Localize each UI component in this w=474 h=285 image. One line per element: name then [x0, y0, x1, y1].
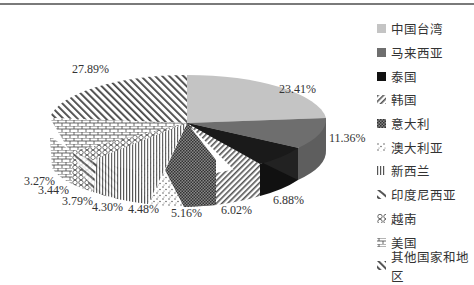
label-newzealand: 4.30% — [92, 200, 123, 215]
label-usa: 3.27% — [24, 174, 55, 189]
brick-square-icon — [377, 238, 386, 247]
vertical-lines-square-icon — [377, 166, 386, 175]
wide-diagonal-square-icon — [377, 190, 386, 199]
label-korea: 6.02% — [221, 203, 252, 218]
legend-item-vietnam: 越南 — [377, 207, 474, 231]
legend-item-australia: 澳大利亚 — [377, 135, 474, 159]
label-thailand: 6.88% — [273, 193, 304, 208]
cross-hatch-square-icon — [377, 119, 386, 128]
legend-item-newzealand: 新西兰 — [377, 159, 474, 183]
slice-other — [50, 75, 187, 123]
label-other: 27.89% — [72, 62, 109, 77]
legend-item-taiwan: 中国台湾 — [377, 17, 474, 41]
label-taiwan: 23.41% — [279, 82, 316, 97]
diagonal-hatch-square-icon — [377, 95, 386, 104]
label-malaysia: 11.36% — [329, 131, 366, 146]
chart-legend: 中国台湾 马来西亚 泰国 韩国 意大利 澳大利亚 新西兰 印度尼西亚 越南 美国… — [377, 17, 474, 278]
legend-item-other: 其他国家和地区 — [377, 254, 474, 278]
legend-item-italy: 意大利 — [377, 112, 474, 136]
label-italy: 5.16% — [171, 206, 202, 221]
legend-item-korea: 韩国 — [377, 88, 474, 112]
legend-item-indonesia: 印度尼西亚 — [377, 183, 474, 207]
diagonal-stripes-square-icon — [377, 261, 386, 270]
hexagon-square-icon — [377, 214, 386, 223]
legend-item-malaysia: 马来西亚 — [377, 41, 474, 65]
label-australia: 4.48% — [128, 202, 159, 217]
black-square-icon — [377, 72, 386, 81]
dots-square-icon — [377, 143, 386, 152]
mid-gray-square-icon — [377, 48, 386, 57]
light-gray-square-icon — [377, 24, 386, 33]
legend-item-thailand: 泰国 — [377, 64, 474, 88]
